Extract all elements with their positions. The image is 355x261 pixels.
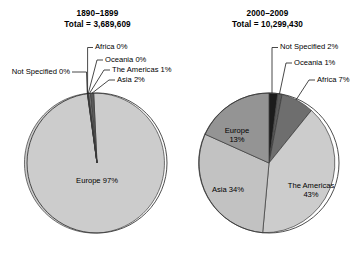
pie-right-label-europe: Europe 13%: [202, 126, 272, 144]
pie-right-label-asia: Asia 34%: [192, 185, 264, 194]
pie-right-label-americas-value: 43%: [273, 190, 349, 199]
pie-right-label-europe-name: Europe: [202, 126, 272, 135]
callout-right-not-specified: Not Specified 2%: [280, 42, 338, 51]
pie-right-label-americas-name: The Americas: [273, 181, 349, 190]
leader-line-right-africa: [296, 80, 315, 100]
pie-chart-2000-2009-graphic: [0, 0, 355, 261]
figure-container: 1890–1899 Total = 3,689,609 2000–2009 To…: [0, 0, 355, 261]
callout-right-oceania: Oceania 1%: [294, 58, 335, 67]
leader-line-right-oceania: [280, 63, 293, 94]
pie-right-label-americas: The Americas 43%: [273, 181, 349, 199]
callout-right-africa: Africa 7%: [317, 75, 350, 84]
pie-right-label-europe-value: 13%: [202, 135, 272, 144]
leader-line-right-not-specified: [272, 48, 278, 94]
